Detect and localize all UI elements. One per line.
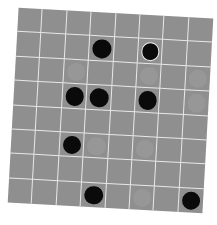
board-cell-r6-c2[interactable]: [58, 156, 84, 182]
board-cell-r1-c2[interactable]: [65, 35, 91, 61]
ghost-stone: [187, 93, 207, 113]
game-stage: [0, 0, 217, 225]
board-cell-r6-c5[interactable]: [131, 161, 157, 187]
board-cell-r0-c3[interactable]: [90, 12, 116, 38]
board-cell-r4-c2[interactable]: [60, 108, 86, 134]
game-board[interactable]: [8, 8, 214, 214]
board-cell-r7-c2[interactable]: [56, 181, 82, 207]
board-cell-r3-c4[interactable]: [111, 86, 137, 112]
black-stone[interactable]: [89, 88, 109, 108]
board-cell-r3-c6[interactable]: [159, 89, 185, 115]
board-cell-r4-c3[interactable]: [85, 109, 111, 135]
board-cell-r0-c0[interactable]: [17, 8, 43, 34]
board-cell-r1-c4[interactable]: [113, 37, 139, 63]
board-cell-r6-c3[interactable]: [82, 158, 108, 184]
board-cell-r1-c6[interactable]: [162, 40, 188, 66]
board-cell-r1-c7[interactable]: [186, 42, 212, 68]
board-cell-r5-c4[interactable]: [108, 135, 134, 161]
board-cell-r3-c1[interactable]: [37, 82, 63, 108]
board-cell-r1-c1[interactable]: [40, 33, 66, 59]
board-cell-r5-c7[interactable]: [181, 139, 207, 165]
board-cell-r0-c4[interactable]: [115, 13, 141, 39]
board-cell-r7-c1[interactable]: [32, 179, 58, 205]
board-cell-r7-c6[interactable]: [154, 186, 180, 212]
board-cell-r0-c1[interactable]: [42, 9, 68, 35]
board-cell-r4-c1[interactable]: [36, 106, 62, 132]
board-cell-r3-c0[interactable]: [13, 81, 39, 107]
board-cell-r0-c5[interactable]: [139, 15, 165, 41]
board-cell-r2-c0[interactable]: [15, 56, 41, 82]
black-stone[interactable]: [84, 185, 104, 205]
board-cell-r6-c0[interactable]: [9, 154, 35, 180]
board-cell-r6-c1[interactable]: [33, 155, 59, 181]
board-cell-r1-c0[interactable]: [16, 32, 42, 58]
board-cell-r7-c4[interactable]: [105, 184, 131, 210]
board-cell-r4-c5[interactable]: [133, 112, 159, 138]
board-cell-r4-c7[interactable]: [182, 115, 208, 141]
board-cell-r6-c7[interactable]: [179, 163, 205, 189]
black-stone[interactable]: [92, 39, 112, 59]
board-cell-r5-c6[interactable]: [156, 138, 182, 164]
board-cell-r4-c4[interactable]: [109, 111, 135, 137]
board-cell-r2-c6[interactable]: [161, 65, 187, 91]
board-cell-r6-c4[interactable]: [106, 159, 132, 185]
board-cell-r2-c3[interactable]: [88, 60, 114, 86]
board-cell-r0-c7[interactable]: [188, 17, 214, 43]
board-cell-r4-c6[interactable]: [158, 113, 184, 139]
board-cell-r2-c1[interactable]: [39, 58, 65, 84]
board-cell-r0-c2[interactable]: [66, 10, 92, 36]
board-cell-r4-c0[interactable]: [12, 105, 38, 131]
board-cell-r7-c0[interactable]: [8, 178, 34, 204]
board-cell-r5-c1[interactable]: [35, 131, 61, 157]
board-cell-r5-c0[interactable]: [10, 129, 36, 155]
board-cell-r2-c4[interactable]: [112, 62, 138, 88]
board-cell-r0-c6[interactable]: [163, 16, 189, 42]
board-cell-r6-c6[interactable]: [155, 162, 181, 188]
